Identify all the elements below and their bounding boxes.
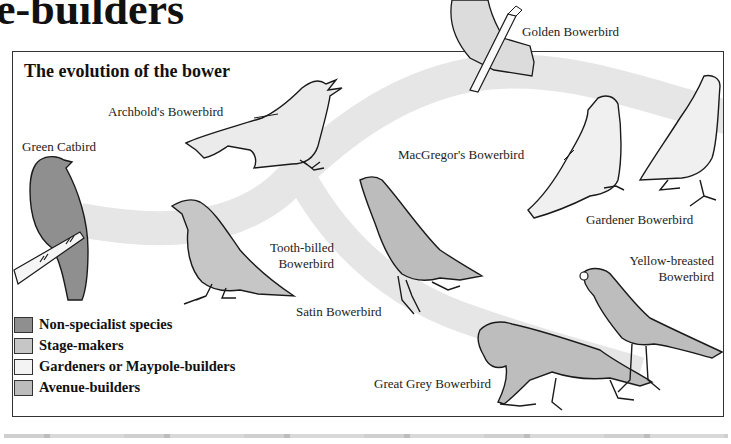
label-tooth-billed-bowerbird: Tooth-billed Bowerbird bbox=[250, 240, 334, 272]
legend-swatch bbox=[14, 317, 33, 333]
label-gardener-bowerbird: Gardener Bowerbird bbox=[586, 212, 693, 228]
label-satin-bowerbird: Satin Bowerbird bbox=[296, 304, 382, 320]
legend-label: Gardeners or Maypole-builders bbox=[39, 358, 235, 375]
legend-label: Avenue-builders bbox=[39, 379, 140, 396]
macgregors-bowerbird-figure bbox=[528, 96, 624, 218]
legend-swatch bbox=[14, 338, 33, 354]
legend-item-avenue-builders: Avenue-builders bbox=[14, 377, 235, 398]
legend-label: Stage-makers bbox=[39, 337, 124, 354]
green-catbird-figure bbox=[14, 157, 88, 300]
diagram-title: The evolution of the bower bbox=[24, 61, 230, 82]
label-golden-bowerbird: Golden Bowerbird bbox=[522, 24, 619, 40]
legend-item-non-specialist: Non-specialist species bbox=[14, 314, 235, 335]
legend-item-gardeners: Gardeners or Maypole-builders bbox=[14, 356, 235, 377]
legend-swatch bbox=[14, 359, 33, 375]
legend-swatch bbox=[14, 380, 33, 396]
label-line-2: Bowerbird bbox=[610, 269, 714, 285]
label-line-1: Yellow-breasted bbox=[610, 253, 714, 269]
label-green-catbird: Green Catbird bbox=[22, 139, 96, 155]
label-line-1: Tooth-billed bbox=[250, 240, 334, 256]
label-macgregors-bowerbird: MacGregor's Bowerbird bbox=[398, 147, 524, 163]
bottom-divider bbox=[4, 434, 728, 438]
legend-item-stage-makers: Stage-makers bbox=[14, 335, 235, 356]
label-line-2: Bowerbird bbox=[250, 256, 334, 272]
label-yellow-breasted-bowerbird: Yellow-breasted Bowerbird bbox=[610, 253, 714, 285]
label-great-grey-bowerbird: Great Grey Bowerbird bbox=[374, 376, 491, 392]
legend: Non-specialist species Stage-makers Gard… bbox=[14, 314, 235, 398]
label-archbolds-bowerbird: Archbold's Bowerbird bbox=[108, 104, 223, 120]
legend-label: Non-specialist species bbox=[39, 316, 172, 333]
